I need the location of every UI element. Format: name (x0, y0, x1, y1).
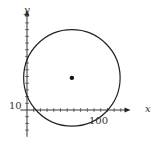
center-point (70, 76, 74, 80)
axes (20, 10, 130, 137)
x-axis-label: x (145, 103, 151, 114)
x-tick-label-100: 100 (89, 115, 108, 126)
y-axis-label: y (24, 4, 30, 15)
y-tick-label-10: 10 (9, 100, 22, 111)
chart-plot (0, 0, 159, 150)
